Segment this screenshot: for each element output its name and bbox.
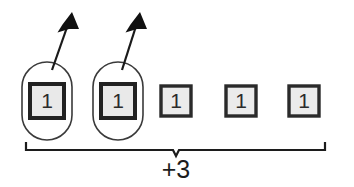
unit-tile-5-label: 1 [298, 89, 310, 112]
unit-tile-3[interactable]: 1 [161, 86, 191, 116]
unit-tile-1-label: 1 [41, 89, 53, 112]
removal-arrow-2-icon [122, 12, 147, 70]
removal-arrows [52, 12, 147, 70]
unit-tile-4-label: 1 [235, 89, 247, 112]
unit-tile-4[interactable]: 1 [226, 86, 256, 116]
diagram-canvas: 1 1 1 1 1 +3 [0, 0, 354, 187]
unit-tile-3-label: 1 [170, 89, 182, 112]
unit-tile-5[interactable]: 1 [289, 86, 319, 116]
underbrace-label: +3 [162, 155, 191, 183]
unit-tile-1[interactable]: 1 [30, 84, 64, 118]
unit-tile-2-label: 1 [112, 89, 124, 112]
unit-tile-2[interactable]: 1 [101, 84, 135, 118]
unit-tiles-diagram: 1 1 1 1 1 +3 [0, 0, 354, 187]
removal-arrow-1-icon [52, 12, 79, 70]
